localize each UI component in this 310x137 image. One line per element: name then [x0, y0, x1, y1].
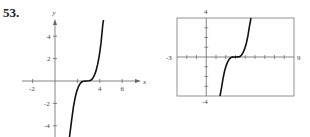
function-curve [70, 20, 104, 137]
right-graph: 4 -4 -3 9 [166, 8, 301, 106]
x-axis-arrow-icon [135, 79, 141, 83]
window-xmax-label: 9 [297, 54, 301, 62]
y-axis-label: y [52, 9, 57, 17]
x-tick-label: -2 [29, 85, 35, 93]
x-tick-label: 4 [98, 85, 102, 93]
y-axis-arrow-icon [53, 19, 57, 25]
x-axis-label: x [142, 78, 147, 86]
left-graph: x y -2 4 6 4 2 -2 -4 [22, 9, 147, 137]
y-tick-label: 2 [47, 55, 51, 63]
x-tick-label: 6 [121, 85, 125, 93]
window-ymax-label: 4 [204, 8, 208, 16]
graphs-canvas: x y -2 4 6 4 2 -2 -4 [0, 0, 310, 137]
y-tick-label: -2 [44, 100, 50, 108]
window-xmin-label: -3 [166, 54, 172, 62]
window-ymin-label: -4 [202, 98, 208, 106]
y-tick-label: 4 [47, 33, 51, 41]
y-tick-label: -4 [44, 122, 50, 130]
